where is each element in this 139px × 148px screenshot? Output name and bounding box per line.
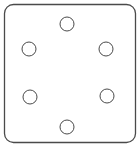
plate-diagram: [0, 0, 139, 148]
hole-lower-left-circle: [23, 90, 37, 104]
hole-top-circle: [60, 17, 74, 31]
rounded-plate: [5, 5, 136, 143]
hole-bottom-circle: [60, 120, 74, 134]
hole-lower-right-circle: [100, 89, 114, 103]
hole-upper-left-circle: [22, 42, 36, 56]
hole-upper-right-circle: [99, 42, 113, 56]
holes-group: [22, 17, 114, 134]
